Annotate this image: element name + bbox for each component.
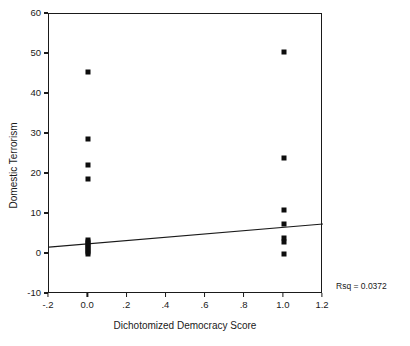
y-axis-title: Domestic Terrorism (8, 106, 19, 226)
x-axis-tick-label: .8 (240, 299, 248, 310)
data-point (281, 240, 286, 245)
data-point (281, 156, 286, 161)
data-point (86, 176, 91, 181)
x-axis-tick-label: .6 (201, 299, 209, 310)
y-axis-tick: 40 (30, 87, 48, 99)
x-axis-title: Dichotomized Democracy Score (48, 320, 322, 332)
rsq-annotation: Rsq = 0.0372 (336, 281, 387, 291)
x-axis-tick: 1.2 (315, 293, 328, 310)
x-axis-tick: 1.0 (276, 293, 289, 310)
x-axis: -.20.0.2.4.6.81.01.2 (0, 293, 410, 315)
data-point (86, 137, 91, 142)
x-axis-tick-label: 0.0 (81, 299, 94, 310)
x-axis-tick-mark (86, 293, 88, 297)
x-axis-tick-mark (126, 293, 128, 297)
y-axis-tick-label: 20 (30, 168, 44, 178)
y-axis-tick: 0 (36, 247, 48, 259)
y-axis-tick: 20 (30, 167, 48, 179)
x-axis-tick-mark (165, 293, 167, 297)
data-point (281, 50, 286, 55)
y-axis-tick: 30 (30, 127, 48, 139)
y-axis-tick: 50 (30, 47, 48, 59)
data-point (86, 163, 91, 168)
data-point (281, 222, 286, 227)
x-axis-tick-mark (204, 293, 206, 297)
y-axis-tick-label: 60 (30, 8, 44, 18)
x-axis-tick-label: -.2 (42, 299, 53, 310)
x-axis-tick-mark (282, 293, 284, 297)
y-axis-tick-label: 30 (30, 128, 44, 138)
y-axis-tick-label: 0 (36, 248, 44, 258)
y-axis-tick-label: 10 (30, 208, 44, 218)
scatter-plot-figure: -100102030405060 -.20.0.2.4.6.81.01.2 Do… (0, 0, 410, 346)
x-axis-tick: 0.0 (81, 293, 94, 310)
x-axis-tick-mark (243, 293, 245, 297)
data-point-layer (49, 14, 323, 294)
x-axis-tick-label: 1.2 (315, 299, 328, 310)
x-axis-tick-mark (321, 293, 323, 297)
y-axis-tick-label: 50 (30, 48, 44, 58)
x-axis-tick: .4 (161, 293, 169, 310)
x-axis-tick-mark (47, 293, 49, 297)
x-axis-tick: .6 (201, 293, 209, 310)
data-point (86, 70, 91, 75)
x-axis-tick: .8 (240, 293, 248, 310)
y-axis-tick: 60 (30, 7, 48, 19)
x-axis-tick: -.2 (42, 293, 53, 310)
x-axis-tick-label: .4 (161, 299, 169, 310)
x-axis-tick: .2 (122, 293, 130, 310)
y-axis-tick: 10 (30, 207, 48, 219)
data-point (281, 252, 286, 257)
y-axis-tick-label: 40 (30, 88, 44, 98)
x-axis-tick-label: 1.0 (276, 299, 289, 310)
data-point (281, 208, 286, 213)
x-axis-tick-label: .2 (122, 299, 130, 310)
data-point (86, 252, 91, 257)
plot-area (48, 13, 322, 293)
